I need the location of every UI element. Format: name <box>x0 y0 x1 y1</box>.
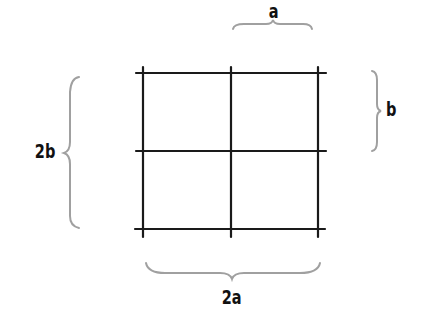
grid-diagram <box>0 0 422 323</box>
braces <box>64 20 381 279</box>
label-left: 2b <box>35 140 56 162</box>
label-bottom: 2a <box>222 286 242 308</box>
brace-bottom <box>146 263 320 279</box>
brace-left <box>64 77 79 228</box>
label-top: a <box>269 0 279 22</box>
label-right: b <box>386 98 396 120</box>
grid-lines <box>135 67 326 237</box>
brace-right <box>372 71 381 151</box>
